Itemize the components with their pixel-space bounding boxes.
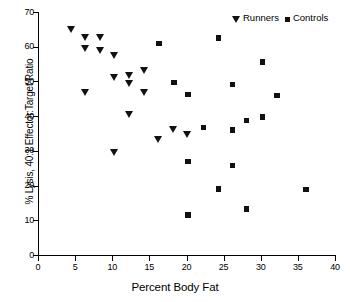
data-point-controls bbox=[260, 59, 265, 64]
x-tick-label: 0 bbox=[26, 263, 50, 272]
data-point-runners bbox=[110, 74, 118, 81]
y-tick-label: 70 bbox=[10, 8, 34, 17]
data-point-controls bbox=[274, 93, 279, 98]
data-point-controls bbox=[185, 92, 190, 97]
x-tick-mark bbox=[224, 256, 225, 261]
x-tick-mark bbox=[335, 256, 336, 261]
y-tick-label: 20 bbox=[10, 181, 34, 190]
data-point-controls bbox=[185, 159, 190, 164]
legend-entry-runners: Runners bbox=[232, 13, 279, 23]
data-point-runners bbox=[125, 111, 133, 118]
data-point-runners bbox=[140, 89, 148, 96]
data-point-runners bbox=[81, 89, 89, 96]
x-tick-mark bbox=[112, 256, 113, 261]
scatter-plot-figure: % Lysis, 40:1 Effector:Target Ratio Perc… bbox=[0, 0, 350, 302]
legend-label: Runners bbox=[243, 13, 279, 23]
x-tick-label: 20 bbox=[175, 263, 199, 272]
plot-area bbox=[38, 12, 335, 255]
data-point-runners bbox=[81, 45, 89, 52]
data-point-runners bbox=[154, 136, 162, 143]
x-tick-mark bbox=[38, 256, 39, 261]
x-tick-mark bbox=[149, 256, 150, 261]
data-point-controls bbox=[230, 82, 235, 87]
data-point-runners bbox=[169, 126, 177, 133]
chart-legend: RunnersControls bbox=[232, 13, 328, 23]
data-point-runners bbox=[110, 149, 118, 156]
data-point-controls bbox=[303, 187, 308, 192]
x-axis-title: Percent Body Fat bbox=[0, 281, 350, 294]
triangle-marker-icon bbox=[232, 16, 240, 23]
data-point-runners bbox=[125, 80, 133, 87]
data-point-controls bbox=[216, 186, 221, 191]
x-tick-label: 40 bbox=[323, 263, 347, 272]
x-tick-label: 5 bbox=[63, 263, 87, 272]
data-point-controls bbox=[216, 35, 221, 40]
x-tick-mark bbox=[261, 256, 262, 261]
data-point-controls bbox=[185, 212, 190, 217]
data-point-controls bbox=[244, 206, 249, 211]
data-point-controls bbox=[260, 114, 265, 119]
x-tick-mark bbox=[75, 256, 76, 261]
data-point-runners bbox=[81, 34, 89, 41]
data-point-controls bbox=[230, 127, 235, 132]
x-tick-label: 10 bbox=[100, 263, 124, 272]
y-tick-label: 60 bbox=[10, 42, 34, 51]
x-tick-label: 15 bbox=[137, 263, 161, 272]
y-tick-label: 50 bbox=[10, 77, 34, 86]
x-tick-label: 35 bbox=[286, 263, 310, 272]
data-point-controls bbox=[201, 125, 206, 130]
data-point-runners bbox=[125, 72, 133, 79]
y-tick-label: 40 bbox=[10, 112, 34, 121]
y-tick-label: 10 bbox=[10, 216, 34, 225]
square-marker-icon bbox=[285, 17, 290, 22]
x-tick-label: 30 bbox=[249, 263, 273, 272]
legend-entry-controls: Controls bbox=[285, 13, 328, 23]
data-point-controls bbox=[244, 118, 249, 123]
data-point-controls bbox=[171, 80, 176, 85]
data-point-runners bbox=[96, 47, 104, 54]
data-point-runners bbox=[110, 52, 118, 59]
y-tick-label: 0 bbox=[10, 251, 34, 260]
y-tick-label: 30 bbox=[10, 146, 34, 155]
data-point-controls bbox=[156, 41, 161, 46]
data-point-runners bbox=[140, 67, 148, 74]
data-point-runners bbox=[67, 26, 75, 33]
data-point-controls bbox=[230, 163, 235, 168]
x-tick-label: 25 bbox=[212, 263, 236, 272]
data-point-runners bbox=[183, 131, 191, 138]
legend-label: Controls bbox=[293, 13, 328, 23]
data-point-runners bbox=[96, 34, 104, 41]
x-tick-mark bbox=[187, 256, 188, 261]
x-tick-mark bbox=[298, 256, 299, 261]
